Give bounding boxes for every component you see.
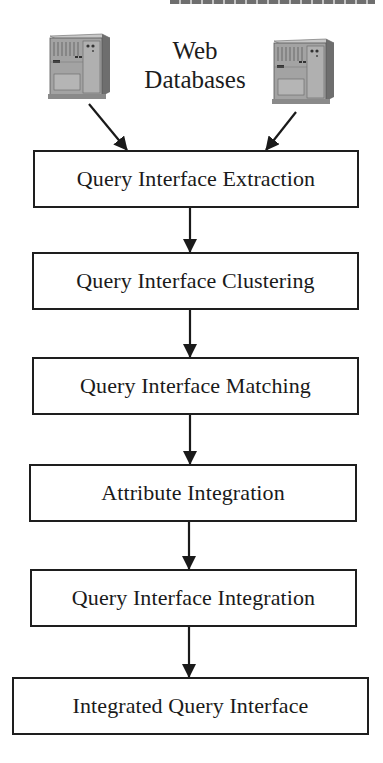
- step-label: Query Interface Matching: [80, 373, 311, 399]
- right-server-icon: [268, 35, 336, 107]
- step-query-interface-matching: Query Interface Matching: [32, 357, 359, 415]
- web-databases-label-line1: Web: [140, 36, 250, 65]
- web-databases-label-line2: Databases: [140, 65, 250, 94]
- arrow-right-server-to-step1: [266, 112, 296, 150]
- step-label: Attribute Integration: [101, 480, 285, 506]
- step-label: Query Interface Clustering: [76, 268, 314, 294]
- step-label: Query Interface Integration: [72, 585, 315, 611]
- step-query-interface-extraction: Query Interface Extraction: [33, 150, 359, 208]
- step-query-interface-clustering: Query Interface Clustering: [32, 252, 359, 310]
- step-attribute-integration: Attribute Integration: [29, 464, 357, 522]
- left-server-icon: [44, 30, 112, 102]
- step-query-interface-integration: Query Interface Integration: [30, 569, 357, 627]
- web-databases-label: Web Databases: [140, 36, 250, 94]
- step-label: Query Interface Extraction: [77, 166, 315, 192]
- step-label: Integrated Query Interface: [73, 693, 309, 719]
- arrow-left-server-to-step1: [89, 104, 127, 150]
- step-integrated-query-interface: Integrated Query Interface: [12, 677, 369, 735]
- cropped-text-remnant: [170, 0, 375, 4]
